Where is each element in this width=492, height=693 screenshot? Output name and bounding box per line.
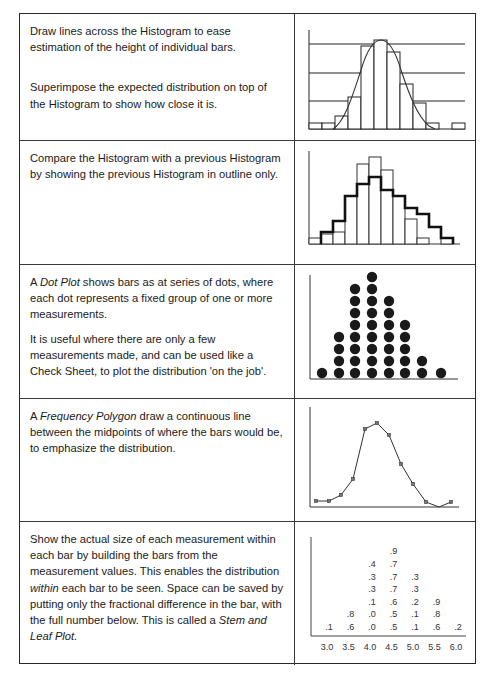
text-span: Show the actual size of each measurement… [30, 533, 279, 577]
leaf-value: .5 [390, 609, 398, 619]
stem-label: 3.0 [321, 642, 334, 652]
figure-cell [295, 14, 475, 140]
row-dot-plot: A Dot Plot shows bars as at series of do… [20, 265, 475, 399]
leaf-value: .8 [433, 609, 441, 619]
description-text: A Dot Plot shows bars as at series of do… [30, 274, 284, 323]
description-text: Show the actual size of each measurement… [30, 531, 284, 644]
leaf-value: .4 [368, 559, 376, 569]
leaf-value: .1 [411, 622, 419, 632]
leaf-value: .3 [411, 572, 419, 582]
histogram-comparison-chart [295, 141, 476, 265]
description-text: Compare the Histogram with a previous Hi… [30, 150, 284, 182]
row-gridlines-histogram: Draw lines across the Histogram to ease … [20, 14, 475, 141]
histogram-with-curve-chart [295, 14, 476, 140]
leaf-value: .7 [390, 559, 398, 569]
leaf-value: .9 [390, 546, 398, 556]
leaf-value: .3 [368, 572, 376, 582]
term-frequency-polygon: Frequency Polygon [40, 410, 136, 422]
leaf-value: .6 [390, 597, 398, 607]
description-text: A Frequency Polygon draw a continuous li… [30, 408, 284, 457]
stem-label: 3.5 [342, 642, 355, 652]
description-text: Superimpose the expected distribution on… [30, 79, 284, 111]
figure-cell [295, 141, 475, 264]
stem-label: 6.0 [450, 642, 463, 652]
description-cell: Show the actual size of each measurement… [20, 522, 295, 665]
dot-plot-chart [295, 265, 476, 399]
leaf-value: .1 [325, 622, 333, 632]
figure-cell [295, 265, 475, 398]
stem-labels: 3.03.54.04.55.05.56.0 [321, 642, 463, 652]
leaf-values: .1.6.8.0.0.1.3.3.4.5.5.6.7.7.7.9.1.1.2.3… [325, 546, 462, 632]
leaf-value: .6 [433, 622, 441, 632]
frequency-polygon-chart [295, 399, 476, 522]
description-cell: A Frequency Polygon draw a continuous li… [20, 399, 295, 521]
leaf-value: .7 [390, 584, 398, 594]
leaf-value: .3 [368, 584, 376, 594]
leaf-value: .0 [368, 609, 376, 619]
text-span: A [30, 410, 40, 422]
leaf-value: .3 [411, 584, 419, 594]
leaf-value: .7 [390, 572, 398, 582]
description-cell: Draw lines across the Histogram to ease … [20, 14, 295, 140]
term-within: within [30, 582, 59, 594]
row-frequency-polygon: A Frequency Polygon draw a continuous li… [20, 399, 475, 522]
stem-label: 5.0 [407, 642, 420, 652]
leaf-value: .1 [411, 609, 419, 619]
stem-label: 4.0 [364, 642, 377, 652]
stem-label: 4.5 [385, 642, 398, 652]
row-compare-histogram: Compare the Histogram with a previous Hi… [20, 141, 475, 265]
term-dot-plot: Dot Plot [40, 276, 80, 288]
leaf-value: .2 [454, 622, 462, 632]
histogram-variants-table: Draw lines across the Histogram to ease … [19, 13, 476, 664]
description-cell: A Dot Plot shows bars as at series of do… [20, 265, 295, 398]
stem-and-leaf-chart: .1.6.8.0.0.1.3.3.4.5.5.6.7.7.7.9.1.1.2.3… [295, 522, 476, 665]
description-text: It is useful where there are only a few … [30, 331, 284, 380]
description-cell: Compare the Histogram with a previous Hi… [20, 141, 295, 264]
figure-cell: .1.6.8.0.0.1.3.3.4.5.5.6.7.7.7.9.1.1.2.3… [295, 522, 475, 665]
leaf-value: .2 [411, 597, 419, 607]
leaf-value: .8 [347, 609, 355, 619]
stem-label: 5.5 [428, 642, 441, 652]
leaf-value: .5 [390, 622, 398, 632]
leaf-value: .9 [433, 597, 441, 607]
figure-cell [295, 399, 475, 521]
text-span: A [30, 276, 40, 288]
row-stem-and-leaf: Show the actual size of each measurement… [20, 522, 475, 665]
leaf-value: .6 [347, 622, 355, 632]
dots [317, 272, 446, 378]
leaf-value: .1 [368, 597, 376, 607]
description-text: Draw lines across the Histogram to ease … [30, 23, 284, 55]
leaf-value: .0 [368, 622, 376, 632]
